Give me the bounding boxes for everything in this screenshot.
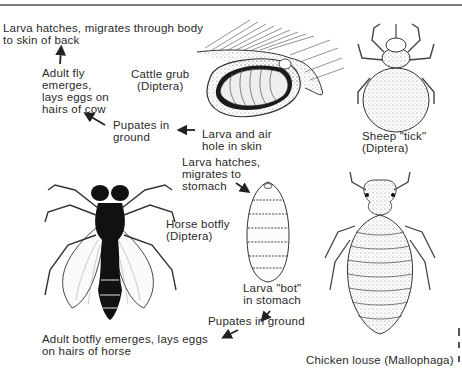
label-horse-botfly-name: Horse botfly (Diptera) [166,218,230,242]
chicken-louse-illustration [325,172,435,334]
bot-larva-illustration [247,182,289,282]
label-horse-larva-hatches: Larva hatches, migrates to stomach [182,156,260,192]
label-cattle-grub-name: Cattle grub (Diptera) [131,68,189,92]
label-cattle-adult-fly: Adult fly emerges, lays eggs on hairs of… [42,67,109,115]
label-sheep-tick-name: Sheep "tick" (Diptera) [362,130,426,154]
page-edge-mark [458,342,460,348]
label-horse-pupates: Pupates in ground [208,315,305,327]
label-cattle-larva-hatches: Larva hatches, migrates through body to … [3,22,203,46]
cattle-grub-illustration [197,20,344,117]
label-adult-botfly-emerges: Adult botfly emerges, lays eggs on hairs… [42,333,208,357]
horse-botfly-illustration [45,185,176,320]
label-cattle-larva-air-hole: Larva and air hole in skin [202,128,272,152]
label-cattle-pupates: Pupates in ground [113,119,169,143]
page-edge-mark [458,356,460,362]
label-larva-bot: Larva "bot" in stomach [243,282,301,306]
page-edge-mark [458,328,460,336]
sheep-tick-illustration [358,24,434,132]
label-chicken-louse-name: Chicken louse (Mallophaga) [306,354,454,366]
